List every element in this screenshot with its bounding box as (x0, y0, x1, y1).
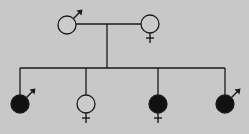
pedigree-chart (0, 0, 249, 134)
affected-circle (11, 95, 29, 113)
unaffected-circle (77, 95, 95, 113)
background (0, 0, 249, 134)
unaffected-circle (141, 15, 159, 33)
unaffected-circle (58, 16, 76, 34)
affected-circle (149, 95, 167, 113)
affected-circle (216, 95, 234, 113)
